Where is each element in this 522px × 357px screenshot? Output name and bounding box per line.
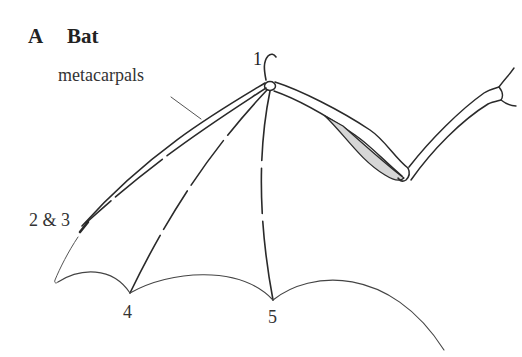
humerus-bone-upper — [409, 87, 499, 167]
metacarpals-leader-line — [171, 97, 201, 119]
label-digits-2-3: 2 & 3 — [29, 211, 70, 229]
digit-4-bone — [130, 90, 267, 293]
wrist-joint — [265, 82, 276, 91]
bat-wing-diagram: A Bat metacarpals 1 2 & 3 4 5 — [0, 0, 522, 357]
figure-title: Bat — [67, 26, 99, 47]
thumb-digit-1 — [264, 54, 276, 80]
wingtip-edge — [55, 237, 78, 283]
shoulder-joint — [499, 68, 516, 106]
label-digit-4: 4 — [123, 303, 132, 321]
panel-letter: A — [28, 26, 43, 47]
digit-3-bone — [86, 88, 266, 223]
label-digit-5: 5 — [268, 308, 277, 326]
membrane-edge-4-to-5 — [130, 275, 273, 300]
membrane-edge-tip-to-4 — [58, 272, 130, 293]
digit-5-bone — [261, 91, 273, 300]
label-digit-1: 1 — [253, 50, 262, 68]
digit-2-bone — [82, 83, 265, 226]
humerus-bone-lower — [411, 100, 501, 180]
label-metacarpals: metacarpals — [58, 66, 144, 84]
membrane-edge-5-to-body — [273, 280, 444, 350]
